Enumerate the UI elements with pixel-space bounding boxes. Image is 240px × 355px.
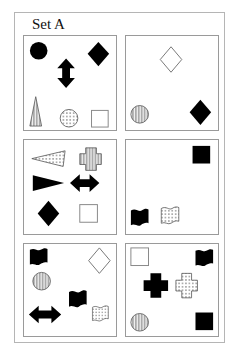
black-square-icon [193, 146, 211, 164]
black-diamond-icon [38, 201, 60, 226]
panel-4 [125, 139, 219, 235]
black-square-icon [195, 313, 213, 331]
horizontal-double-arrow-icon [70, 174, 99, 192]
panel-3 [23, 139, 117, 235]
striped-cross-icon [80, 148, 102, 171]
black-diamond-icon [190, 100, 212, 125]
horizontal-double-arrow-icon [29, 306, 61, 324]
panel-5 [23, 243, 117, 337]
black-circle-icon [30, 42, 48, 60]
dotted-cross-icon [176, 273, 198, 297]
striped-triangle-icon [30, 97, 42, 126]
panel-2 [125, 35, 219, 131]
striped-circle-icon [131, 313, 149, 331]
striped-circle-icon [33, 272, 51, 290]
dotted-circle-icon [60, 109, 78, 127]
dotted-flag-icon [92, 306, 108, 321]
dotted-triangle-icon [32, 151, 65, 167]
vertical-double-arrow-icon [57, 59, 75, 88]
panel-1 [23, 35, 117, 131]
black-flag-icon [195, 249, 213, 266]
set-title: Set A [32, 16, 65, 32]
black-cross-icon [144, 273, 168, 297]
striped-circle-icon [131, 106, 149, 124]
black-flag-icon [131, 209, 149, 226]
hollow-square-icon [131, 248, 149, 266]
black-flag-icon [30, 248, 48, 265]
hollow-square-icon [80, 205, 98, 223]
black-flag-icon [69, 290, 87, 307]
black-diamond-icon [88, 42, 110, 66]
hollow-diamond-icon [89, 248, 111, 273]
dotted-flag-icon [161, 207, 179, 224]
panel-6 [125, 243, 219, 337]
hollow-square-icon [92, 110, 109, 127]
black-triangle-icon [33, 175, 64, 191]
hollow-diamond-icon [160, 47, 182, 72]
